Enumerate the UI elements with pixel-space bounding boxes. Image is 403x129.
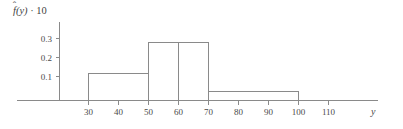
x-tick-label-30: 30 [84, 107, 94, 117]
x-tick-label-110: 110 [322, 107, 336, 117]
y-tick-label-0.1: 0.1 [41, 72, 52, 82]
x-tick-label-90: 90 [264, 107, 274, 117]
x-tick-label-60: 60 [174, 107, 184, 117]
y-tick-label-0.2: 0.2 [41, 53, 52, 63]
histogram-bar-60-70 [179, 43, 209, 101]
x-tick-label-40: 40 [114, 107, 124, 117]
x-axis-label: y [370, 106, 376, 117]
histogram-bar-50-60 [149, 43, 179, 101]
histogram-bar-30-50 [89, 74, 149, 101]
y-tick-label-0.3: 0.3 [41, 34, 53, 44]
histogram-bar-70-100 [209, 92, 299, 101]
x-tick-label-50: 50 [144, 107, 154, 117]
x-tick-label-80: 80 [234, 107, 244, 117]
x-tick-label-100: 100 [292, 107, 306, 117]
plot-area: 0.3 0.2 0.1 30 40 50 60 70 80 90 100 110… [0, 0, 403, 129]
histogram-figure: ̂f(y) · 10 0.3 0.2 0.1 30 40 50 60 70 80… [0, 0, 403, 129]
x-tick-label-70: 70 [204, 107, 214, 117]
